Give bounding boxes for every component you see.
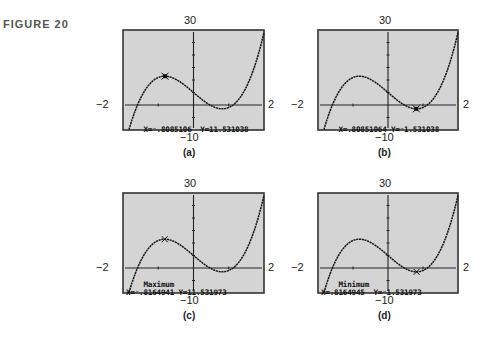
readout: Minimum X=.8164945 Y=⁻1.531973 (321, 273, 422, 305)
ymax-label: 30 (184, 177, 196, 189)
xmin-label: −2 (96, 261, 109, 273)
readout-y: Y=⁻1.531973 (373, 288, 421, 297)
readout-y: Y=11.531973 (178, 288, 226, 297)
xmax-label: 2 (268, 261, 274, 273)
xmin-label: −2 (291, 98, 304, 110)
readout-y: Y=⁻1.531038 (391, 125, 439, 134)
xmin-label: −2 (291, 261, 304, 273)
graph-screen (123, 30, 264, 130)
readout: X=⁻.8085106 Y=11.531038 (126, 118, 248, 142)
xmin-label: −2 (96, 98, 109, 110)
panel-caption: (a) (183, 147, 195, 158)
panel-caption: (d) (378, 310, 391, 321)
panel-d: 30 −2 2 −10 (d) Minimum X=.8164945 Y=⁻1.… (291, 177, 471, 327)
readout-y: Y=11.531038 (200, 125, 248, 134)
xmax-label: 2 (463, 261, 469, 273)
graph-screen (318, 30, 458, 130)
panel-caption: (b) (378, 147, 391, 158)
readout-x: X=⁻.8085106 (144, 125, 192, 134)
readout: X=.80851064 Y=⁻1.531038 (321, 118, 439, 142)
ymax-label: 30 (184, 14, 196, 26)
readout-x: X=.8164945 (321, 288, 365, 297)
panel-caption: (c) (183, 310, 195, 321)
xmax-label: 2 (463, 98, 469, 110)
readout-x: X=⁻.8164941 (126, 288, 174, 297)
panel-a: 30 −2 2 −10 (a) X=⁻.8085106 Y=11.531038 (96, 14, 276, 164)
ymax-label: 30 (379, 177, 391, 189)
readout-x: X=.80851064 (339, 125, 387, 134)
panel-b: 30 −2 2 −10 (b) X=.80851064 Y=⁻1.531038 (291, 14, 471, 164)
ymax-label: 30 (379, 14, 391, 26)
readout: Maximum X=⁻.8164941 Y=11.531973 (126, 273, 227, 305)
xmax-label: 2 (268, 98, 274, 110)
figure-label: FIGURE 20 (3, 18, 69, 30)
panel-c: 30 −2 2 −10 (c) Maximum X=⁻.8164941 Y=11… (96, 177, 276, 327)
